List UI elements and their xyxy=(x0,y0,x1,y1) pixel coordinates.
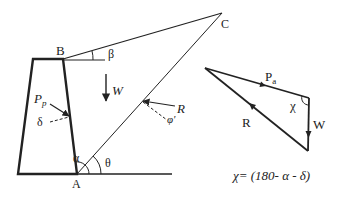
label-b: B xyxy=(56,43,65,58)
pp-sub: p xyxy=(41,98,47,108)
diagram-canvas: B β C W R φ' Pp δ α θ A Pa χ R W χ= (180… xyxy=(0,0,339,198)
passive-force-arrow xyxy=(50,104,69,116)
w-arrowhead-icon xyxy=(306,131,312,138)
label-beta: β xyxy=(108,47,114,61)
pp-main: P xyxy=(33,91,42,106)
pa-sub: a xyxy=(272,76,276,86)
beta-angle-arc xyxy=(92,51,93,60)
retaining-wall xyxy=(18,59,77,174)
chi-equation: χ= (180- α - δ) xyxy=(231,168,310,183)
label-chi: χ xyxy=(289,98,296,113)
label-delta: δ xyxy=(37,115,43,129)
label-w-triangle: W xyxy=(313,117,326,132)
label-phi: φ' xyxy=(167,113,176,125)
delta-dashed-line xyxy=(50,117,69,122)
label-theta: θ xyxy=(105,156,111,170)
label-r-triangle: R xyxy=(242,115,251,130)
label-pa: Pa xyxy=(265,69,276,86)
label-a: A xyxy=(72,177,81,191)
pa-main: P xyxy=(265,69,272,84)
label-pp: Pp xyxy=(33,91,47,108)
w-vector xyxy=(308,98,309,151)
backfill-surface-line xyxy=(63,13,222,59)
label-c: C xyxy=(221,17,229,31)
label-w-wedge: W xyxy=(112,83,124,98)
label-alpha: α xyxy=(73,151,80,165)
label-r-wedge: R xyxy=(176,101,185,116)
theta-angle-arc xyxy=(93,156,101,174)
failure-plane-line xyxy=(77,13,222,174)
pa-vector xyxy=(205,68,309,98)
